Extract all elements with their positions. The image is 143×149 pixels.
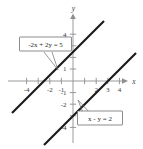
x-tick-label-3: 3 bbox=[106, 86, 110, 94]
x-tick-label-4: 4 bbox=[118, 86, 122, 94]
y-tick-label--2: -2 bbox=[61, 101, 67, 109]
x-axis-arrow-icon bbox=[122, 78, 128, 84]
coordinate-plane: -4 -2 -1 2 3 4 4 1 -1 -2 -4 x y -2x + 2y… bbox=[0, 0, 143, 149]
y-axis-arrow-icon bbox=[70, 14, 76, 20]
callout-1-leader-line bbox=[44, 52, 58, 70]
y-axis-label: y bbox=[71, 4, 76, 13]
callout-1-leader-line-2 bbox=[52, 52, 58, 70]
callout-1-label: -2x + 2y = 5 bbox=[28, 41, 63, 49]
callout-2-label: x - y = 2 bbox=[88, 115, 112, 123]
x-tick-label--4: -4 bbox=[24, 86, 30, 94]
y-tick-label--1: -1 bbox=[61, 89, 67, 97]
x-axis-label: x bbox=[131, 77, 136, 86]
graph-figure: -4 -2 -1 2 3 4 4 1 -1 -2 -4 x y -2x + 2y… bbox=[0, 0, 143, 149]
x-tick-label--2: -2 bbox=[47, 86, 53, 94]
y-tick-label-1: 1 bbox=[63, 65, 67, 73]
